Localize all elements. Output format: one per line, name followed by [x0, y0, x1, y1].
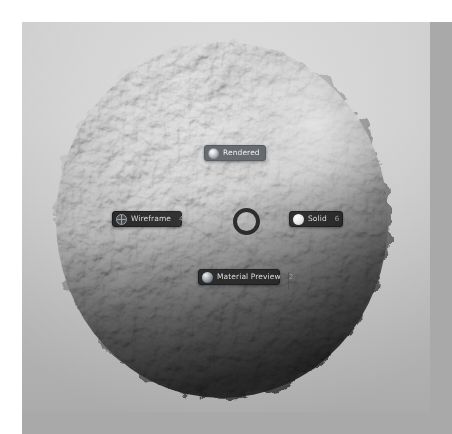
pie-item-solid[interactable]: Solid 6: [289, 211, 343, 227]
pie-menu-center[interactable]: [233, 208, 260, 235]
shading-material-preview-icon: [202, 272, 213, 283]
pie-item-rendered[interactable]: Rendered 8: [204, 145, 266, 161]
pie-item-material-preview[interactable]: Material Preview 2: [198, 269, 280, 285]
pie-item-rendered-shortcut: 8: [268, 146, 274, 160]
rock-mesh-icon: [46, 36, 398, 404]
pie-item-rendered-label: Rendered: [219, 146, 268, 160]
pie-item-material-preview-label: Material Preview: [213, 270, 289, 284]
viewport-3d[interactable]: Rendered 8 Wireframe 4 Solid 6 Material …: [22, 22, 430, 412]
pie-item-wireframe-label: Wireframe: [127, 212, 179, 226]
screenshot-root: Rendered 8 Wireframe 4 Solid 6 Material …: [0, 0, 452, 434]
shading-rendered-icon: [208, 148, 219, 159]
pie-item-wireframe[interactable]: Wireframe 4: [112, 211, 182, 227]
shading-wireframe-icon: [116, 214, 127, 225]
pie-item-wireframe-shortcut: 4: [179, 212, 185, 226]
scene-object-rock[interactable]: [46, 36, 398, 404]
pie-item-material-preview-shortcut: 2: [289, 270, 295, 284]
shading-solid-icon: [293, 214, 304, 225]
pie-item-solid-shortcut: 6: [335, 212, 341, 226]
pie-item-solid-label: Solid: [304, 212, 335, 226]
